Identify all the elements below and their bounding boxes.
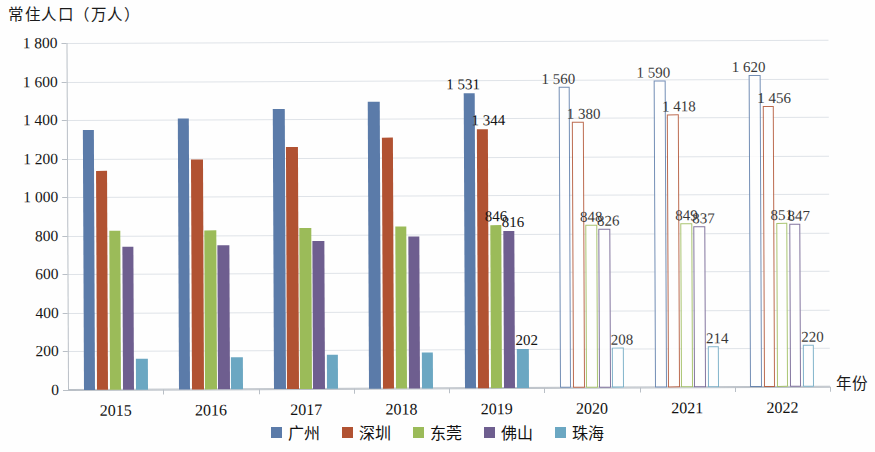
legend-swatch-icon: [484, 427, 495, 438]
legend-swatch-icon: [413, 427, 424, 438]
plot-area: 02004006008001 0001 2001 4001 6001 800 2…: [68, 43, 830, 390]
bar-value-label: 1 531: [446, 77, 480, 92]
bar: [408, 236, 420, 389]
bar: 1 560: [559, 87, 572, 388]
x-axis-tick: [258, 389, 259, 394]
bar: 208: [612, 347, 624, 387]
bar-value-label: 1 456: [757, 91, 791, 106]
legend-swatch-icon: [342, 427, 353, 438]
legend-label: 东莞: [430, 420, 462, 444]
bar-value-label: 214: [706, 331, 729, 346]
x-axis-title: 年份: [836, 371, 868, 393]
y-axis-tick: [62, 236, 67, 237]
y-axis-tick: [62, 82, 67, 83]
bar: 202: [517, 349, 529, 388]
bar-value-label: 208: [611, 332, 634, 347]
legend-label: 广州: [288, 420, 320, 444]
bar: [96, 170, 108, 389]
bar: [286, 147, 299, 389]
bar: 1 590: [654, 81, 667, 388]
bar-value-label: 202: [515, 333, 538, 348]
bar: [231, 357, 243, 389]
y-axis-tick-label: 400: [35, 304, 58, 322]
y-axis-tick-label: 1 400: [23, 111, 58, 129]
bar: 846: [490, 225, 502, 388]
bar-value-label: 220: [801, 329, 824, 344]
bar: [381, 137, 394, 388]
x-axis-tick-label: 2015: [100, 402, 132, 420]
x-axis-tick: [163, 390, 164, 395]
x-axis-tick: [639, 388, 640, 393]
bar-value-label: 1 418: [662, 99, 696, 114]
chart-legend: 广州深圳东莞佛山珠海: [0, 420, 875, 444]
x-axis-tick-label: 2018: [385, 400, 417, 418]
bar: [109, 231, 121, 390]
bar: 1 344: [477, 129, 490, 388]
bar: 1 456: [762, 106, 775, 387]
bar: [178, 119, 191, 390]
legend-item[interactable]: 深圳: [342, 420, 391, 444]
y-axis-tick-label: 0: [51, 381, 59, 399]
plot-inner: 02004006008001 0001 2001 4001 6001 800 2…: [66, 40, 830, 390]
legend-item[interactable]: 广州: [271, 420, 320, 444]
y-axis-tick-label: 1 800: [23, 34, 58, 52]
x-axis-tick: [449, 388, 450, 393]
bar-value-label: 826: [597, 213, 620, 228]
bar: 220: [803, 344, 815, 386]
x-axis-tick-label: 2022: [766, 399, 798, 417]
bar: [191, 160, 204, 390]
y-axis-tick: [62, 120, 67, 121]
bar: 1 531: [463, 93, 476, 388]
legend-label: 珠海: [572, 420, 604, 444]
bar: [422, 352, 434, 388]
bar-value-label: 1 344: [472, 113, 506, 128]
legend-item[interactable]: 珠海: [555, 420, 604, 444]
y-axis-tick: [63, 351, 68, 352]
y-axis-tick: [62, 197, 67, 198]
bar: 837: [694, 226, 706, 387]
bar: [122, 246, 134, 389]
y-axis-tick-label: 800: [35, 227, 58, 245]
y-axis-tick: [61, 43, 66, 44]
bar: [300, 228, 312, 389]
y-axis-tick-label: 1 000: [23, 188, 58, 206]
bar: 214: [707, 346, 719, 387]
bar: 1 620: [749, 75, 762, 387]
bar-value-label: 1 380: [567, 107, 601, 122]
x-axis-tick-label: 2016: [195, 401, 227, 419]
bar: [395, 227, 407, 389]
bar: 848: [585, 224, 597, 388]
legend-label: 深圳: [359, 420, 391, 444]
gridlines: [66, 40, 828, 43]
y-axis-tick-label: 600: [35, 265, 58, 283]
bar: [326, 355, 338, 389]
y-axis-title: 常住人口（万人）: [8, 2, 140, 24]
bar: [218, 245, 230, 389]
bar: [313, 241, 325, 389]
bar: [368, 101, 381, 388]
bar-value-label: 1 620: [732, 60, 766, 75]
bar: [83, 130, 96, 390]
y-axis-tick: [62, 274, 67, 275]
legend-label: 佛山: [501, 420, 533, 444]
y-axis-tick: [63, 390, 68, 391]
x-axis-tick-label: 2020: [576, 400, 608, 418]
population-bar-chart: 常住人口（万人） 02004006008001 0001 2001 4001 6…: [0, 0, 875, 452]
y-axis-tick: [63, 313, 68, 314]
x-axis-tick-label: 2019: [481, 400, 513, 418]
legend-item[interactable]: 东莞: [413, 420, 462, 444]
bar: 847: [789, 224, 801, 387]
gridline: [66, 40, 828, 44]
bar-value-label: 1 560: [541, 72, 575, 87]
bar: 849: [681, 224, 693, 388]
legend-item[interactable]: 佛山: [484, 420, 533, 444]
bar: [136, 358, 148, 389]
y-axis-tick-label: 1 200: [23, 150, 58, 168]
y-axis-tick: [62, 159, 67, 160]
x-axis-tick: [735, 387, 736, 392]
bar-value-label: 837: [692, 211, 715, 226]
x-axis-tick-label: 2021: [671, 399, 703, 417]
x-axis-tick: [830, 387, 831, 392]
bar: [273, 110, 286, 390]
y-axis-line: [66, 43, 69, 390]
